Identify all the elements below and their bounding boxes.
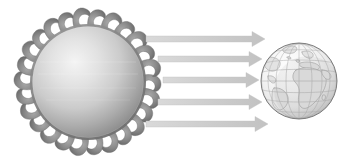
figure-canvas [0, 0, 351, 168]
sun-disc [33, 27, 144, 138]
solar-radiation-figure: The Sun, drawn as a shaded sphere surrou… [0, 0, 351, 168]
